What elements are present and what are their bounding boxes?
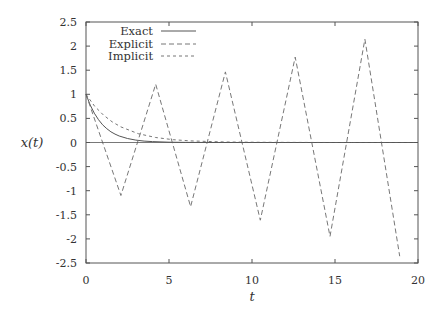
y-tick-label: -1.5 <box>56 209 77 222</box>
legend-label-exact: Exact <box>120 24 153 38</box>
legend: Exact Explicit Implicit <box>108 24 196 63</box>
series-explicit <box>86 39 400 256</box>
y-tick-label: -2 <box>66 233 77 246</box>
y-tick-label: -0.5 <box>56 161 77 174</box>
x-tick-label: 15 <box>328 274 342 287</box>
y-tick-label: 2 <box>70 40 77 53</box>
y-tick-label: -1 <box>66 185 77 198</box>
legend-label-implicit: Implicit <box>108 49 153 63</box>
x-tick-label: 0 <box>83 274 90 287</box>
series-exact <box>86 94 418 142</box>
x-axis-label: t <box>249 289 255 304</box>
x-tick-label: 5 <box>166 274 173 287</box>
y-tick-label: 0.5 <box>60 112 78 125</box>
y-tick-label: 1.5 <box>60 64 78 77</box>
y-tick-label: 2.5 <box>60 16 78 29</box>
y-axis-label: x(t) <box>21 135 44 150</box>
x-tick-label: 20 <box>411 274 425 287</box>
y-tick-label: -2.5 <box>56 257 77 270</box>
chart: 05101520 -2.5-2-1.5-1-0.500.511.522.5 x(… <box>0 0 446 314</box>
y-tick-label: 1 <box>70 88 77 101</box>
x-tick-label: 10 <box>245 274 259 287</box>
y-tick-label: 0 <box>70 137 77 150</box>
plot-series <box>86 39 418 256</box>
series-implicit <box>86 94 418 142</box>
